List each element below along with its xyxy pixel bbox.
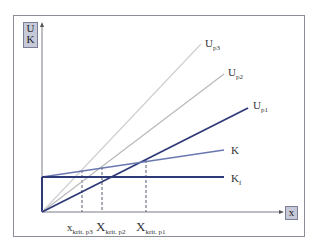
line-up1 [42, 108, 248, 212]
y-axis-label-k: K [24, 34, 37, 45]
y-axis-arrow-icon [40, 22, 44, 27]
label-up2: Up2 [228, 67, 243, 81]
line-up2 [42, 74, 224, 212]
x-axis-arrow-icon [279, 210, 284, 214]
label-up1: Up1 [253, 100, 268, 114]
label-kf: Kf [231, 173, 241, 187]
line-up3 [42, 44, 201, 212]
label-x-krit-p2: Xkrit. p2 [96, 220, 126, 236]
x-axis-label: x [289, 206, 295, 218]
label-x-krit-p1: Xkrit. p1 [136, 220, 166, 236]
y-axis-label-box: U K [23, 22, 38, 48]
diagram-canvas [0, 0, 318, 251]
label-x-krit-p3: xkrit. p3 [67, 222, 93, 236]
x-axis-label-box: x [285, 206, 298, 220]
label-up3: Up3 [205, 38, 220, 52]
line-k [42, 150, 224, 177]
label-k: K [231, 145, 239, 159]
